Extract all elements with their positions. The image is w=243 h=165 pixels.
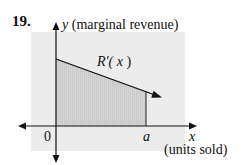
y-axis-up-arrow-icon	[53, 22, 60, 30]
curve-label: R′( x )	[96, 54, 132, 70]
origin-label: 0	[44, 129, 51, 144]
y-axis-var: y	[60, 17, 69, 32]
curve-label-var: x	[116, 54, 124, 69]
y-axis-desc: (marginal revenue)	[72, 17, 179, 33]
curve-label-suffix: )	[127, 54, 132, 70]
x-axis-desc: (units sold)	[164, 142, 228, 158]
x-axis-left-arrow-icon	[18, 123, 26, 130]
y-axis-label: y (marginal revenue)	[60, 17, 179, 33]
curve-label-prefix: R′(	[96, 54, 115, 70]
marginal-revenue-diagram: 19. y (marginal revenue) R′( x ) 0 a x (…	[0, 0, 243, 165]
a-label: a	[143, 129, 150, 144]
y-axis-down-arrow-icon	[53, 155, 60, 163]
problem-number: 19.	[12, 13, 31, 29]
